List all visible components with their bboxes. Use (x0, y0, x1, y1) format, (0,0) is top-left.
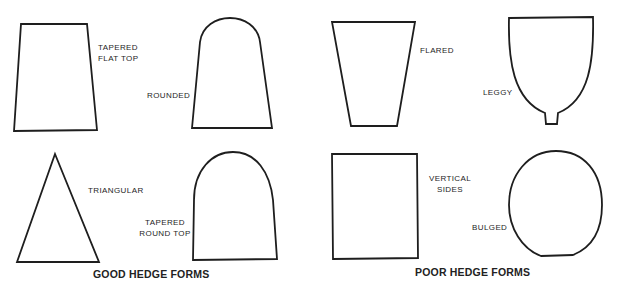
caption-poor-hedge-forms: POOR HEDGE FORMS (415, 266, 530, 278)
label-line: FLAT TOP (98, 53, 138, 64)
label-line: LEGGY (483, 87, 513, 98)
tapered-round-top-shape (193, 152, 277, 260)
rounded-shape (192, 18, 272, 128)
bulged-shape (509, 151, 602, 256)
label-triangular: TRIANGULAR (88, 185, 144, 196)
label-line: TRIANGULAR (88, 185, 144, 196)
hedge-forms-diagram (0, 0, 618, 295)
label-line: BULGED (472, 222, 507, 233)
leggy-shape (509, 17, 593, 124)
label-leggy: LEGGY (483, 87, 513, 98)
label-tapered-flat-top: TAPERED FLAT TOP (98, 42, 138, 64)
label-line: SIDES (427, 184, 473, 195)
label-line: ROUNDED (147, 90, 190, 101)
label-bulged: BULGED (472, 222, 507, 233)
flared-shape (332, 22, 415, 126)
label-vertical-sides: VERTICAL SIDES (427, 173, 473, 195)
vertical-sides-shape (332, 154, 418, 259)
label-tapered-round-top: TAPERED ROUND TOP (139, 217, 191, 239)
label-flared: FLARED (420, 45, 454, 56)
label-line: TAPERED (98, 42, 138, 53)
caption-good-hedge-forms: GOOD HEDGE FORMS (93, 268, 209, 280)
label-line: VERTICAL (427, 173, 473, 184)
triangular-shape (17, 154, 99, 262)
label-line: TAPERED (139, 217, 191, 228)
tapered-flat-top-shape (14, 24, 97, 131)
label-rounded: ROUNDED (147, 90, 190, 101)
label-line: ROUND TOP (139, 228, 191, 239)
label-line: FLARED (420, 45, 454, 56)
